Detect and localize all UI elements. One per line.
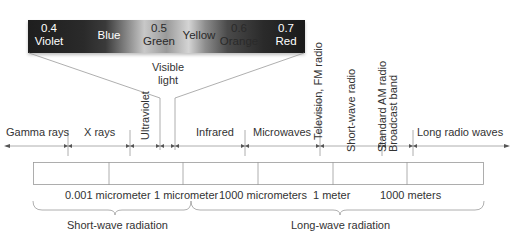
long-wave-radiation-label: Long-wave radiation bbox=[291, 219, 390, 231]
band-infrared: Infrared bbox=[196, 126, 234, 138]
scale-label-0-001-micrometer: 0.001 micrometer bbox=[65, 189, 151, 201]
scale-label-1000-meters: 1000 meters bbox=[380, 189, 441, 201]
band-television-fm-radio: Television, FM radio bbox=[312, 42, 324, 140]
band-microwaves: Microwaves bbox=[253, 126, 311, 138]
scale-label-1-micrometer: 1 micrometer bbox=[154, 189, 218, 201]
diagram-lines bbox=[0, 0, 516, 238]
band-short-wave-radio: Short-wave radio bbox=[345, 69, 357, 152]
band-long-radio-waves: Long radio waves bbox=[417, 126, 503, 138]
band-x-rays: X rays bbox=[84, 126, 115, 138]
band-gamma-rays: Gamma rays bbox=[6, 126, 69, 138]
scale-label-1-meter: 1 meter bbox=[313, 189, 350, 201]
short-wave-radiation-label: Short-wave radiation bbox=[67, 219, 168, 231]
band-ultraviolet: Ultraviolet bbox=[139, 91, 151, 140]
band-broadcast-band: Broadcast band bbox=[387, 75, 399, 152]
scale-label-1000-micrometers: 1000 micrometers bbox=[219, 189, 307, 201]
